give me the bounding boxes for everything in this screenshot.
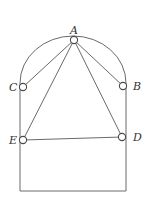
point-c-circle-icon xyxy=(19,83,26,90)
point-nodes xyxy=(19,36,126,143)
point-d-label: D xyxy=(132,131,142,144)
point-a-label: A xyxy=(69,24,78,37)
point-b-label: B xyxy=(132,80,141,93)
point-e-label: E xyxy=(8,134,17,147)
geometry-diagram: ABCDE xyxy=(0,0,149,215)
connecting-segments xyxy=(23,40,123,140)
point-d-circle-icon xyxy=(118,133,125,140)
segment-ac xyxy=(23,40,74,87)
segment-ed xyxy=(23,137,122,140)
point-b-circle-icon xyxy=(119,82,126,89)
segment-ab xyxy=(74,40,123,86)
point-e-circle-icon xyxy=(19,136,26,143)
point-c-label: C xyxy=(9,81,18,94)
point-a-circle-icon xyxy=(70,36,77,43)
